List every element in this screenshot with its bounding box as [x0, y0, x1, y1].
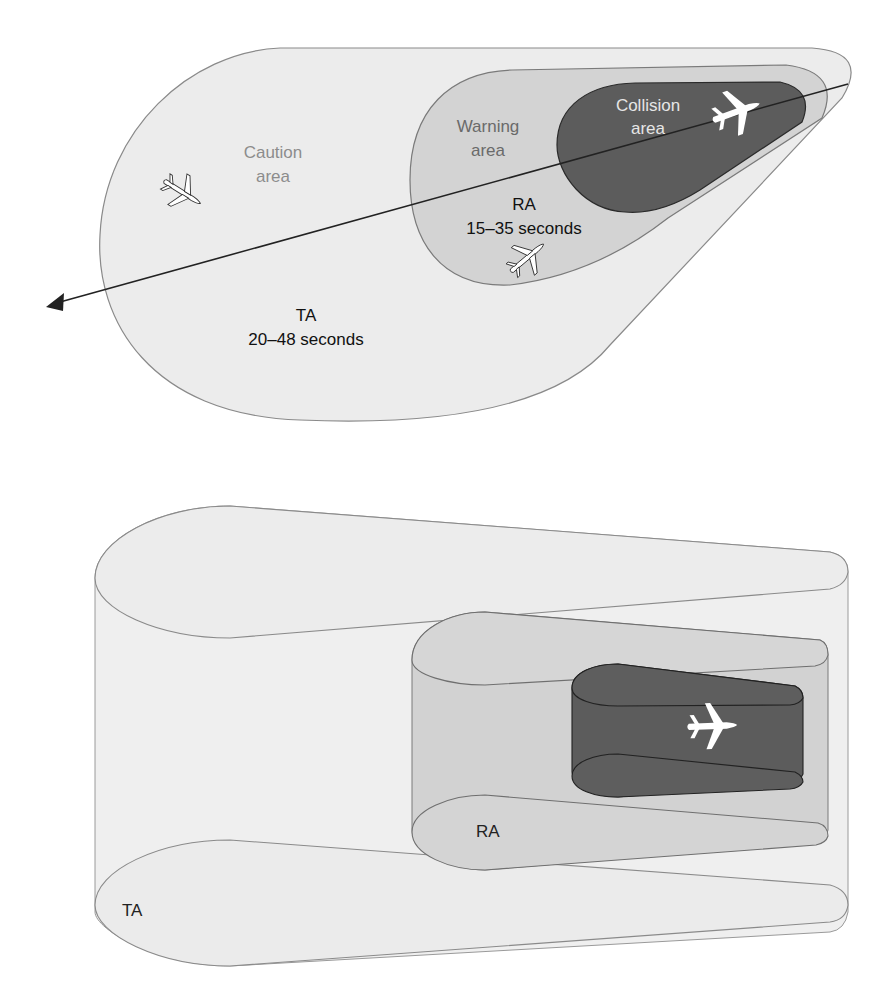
ta-3d-label: TA: [122, 901, 143, 920]
top-plan-view: Caution area Warning area Collision area…: [46, 48, 851, 421]
bottom-3d-view: RA TA: [95, 506, 848, 966]
ta-label: TA: [296, 306, 317, 325]
ta-time-label: 20–48 seconds: [248, 330, 363, 349]
ra-time-label: 15–35 seconds: [466, 219, 581, 238]
tcas-diagram-canvas: Caution area Warning area Collision area…: [0, 0, 886, 988]
caution-area-label: Caution: [244, 143, 303, 162]
flight-path-arrowhead-icon: [46, 293, 64, 311]
warning-area-label: Warning: [457, 117, 520, 136]
caution-area-label-line2: area: [256, 167, 291, 186]
collision-area-label-line2: area: [631, 119, 666, 138]
collision-area-label: Collision: [616, 96, 680, 115]
ra-3d-label: RA: [476, 822, 500, 841]
ra-label: RA: [512, 195, 536, 214]
warning-area-label-line2: area: [471, 141, 506, 160]
